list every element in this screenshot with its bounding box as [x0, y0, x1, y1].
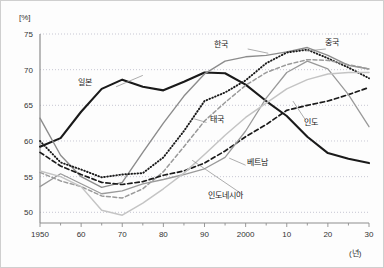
x-tick-label: 60 [77, 230, 86, 239]
x-tick-label: 30 [365, 230, 374, 239]
series-line-korea [40, 48, 369, 188]
annotation-leader-line [293, 101, 305, 120]
y-tick-label: 55 [24, 173, 33, 182]
x-tick-label: 90 [200, 230, 209, 239]
series-label: 인도 [304, 117, 318, 127]
series-label: 인도네시아 [208, 190, 244, 200]
chart-figure: [%] (년) 75706560555019506070809020001020… [0, 0, 384, 268]
y-tick-label: 75 [24, 30, 33, 39]
x-tick-label: 1950 [31, 230, 49, 239]
x-tick-label: 80 [159, 230, 168, 239]
series-label: 한국 [214, 40, 228, 49]
x-tick-label: 10 [282, 230, 291, 239]
x-tick-label: 20 [323, 230, 332, 239]
series-line-indonesia [40, 73, 369, 216]
series-line-china [40, 50, 369, 178]
series-label: 중국 [325, 38, 339, 47]
x-tick-label: 2000 [237, 230, 255, 239]
y-tick-label: 50 [24, 208, 33, 217]
y-tick-label: 65 [24, 101, 33, 110]
data-series-group [40, 48, 369, 216]
series-label: 일본 [78, 78, 92, 87]
annotation-leader-line [229, 158, 245, 165]
annotation-leader-line [248, 49, 269, 53]
series-label: 베트남 [247, 158, 269, 167]
x-tick-label: 70 [118, 230, 127, 239]
line-chart-plot: 7570656055501950607080902000102030 일본한국중… [1, 1, 384, 268]
series-label: 태국 [210, 115, 224, 124]
y-tick-label: 70 [24, 66, 33, 75]
axes-group [40, 34, 369, 227]
y-tick-label: 60 [24, 137, 33, 146]
tick-labels-group: 7570656055501950607080902000102030 [24, 30, 374, 239]
